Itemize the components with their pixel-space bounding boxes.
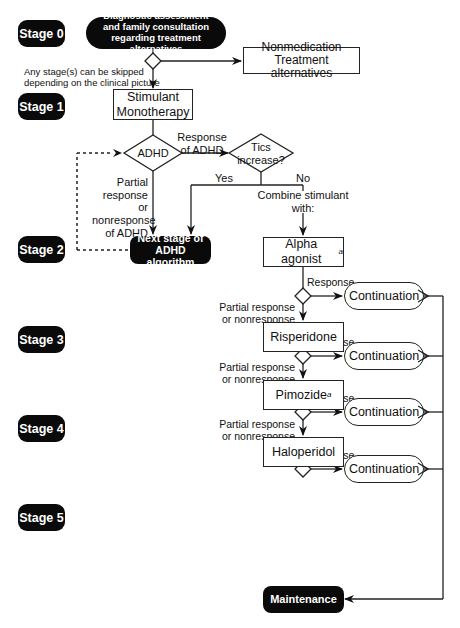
partial-line1: Partial response — [210, 301, 295, 313]
next-stage-line2: ADHD algorithm — [130, 244, 211, 268]
combine-stimulant-label: Combine stimulant with: — [248, 195, 358, 209]
tics-increase-decision-node: Tics increase? — [236, 141, 286, 166]
stimulant-monotherapy-node: Stimulant Monotherapy — [113, 89, 193, 120]
continuation-node-2: Continuation — [344, 342, 424, 370]
nonmedication-line1: Nonmedication — [261, 41, 341, 54]
no-label: No — [293, 172, 313, 184]
diagnostic-assessment-node: Diagnostic assessment and family consult… — [86, 17, 226, 49]
response-of-adhd-line1: Response — [177, 131, 227, 144]
continuation-node-4: Continuation — [344, 455, 424, 483]
partial-response-adhd-label: Partial response or nonresponse of ADHD — [92, 176, 148, 239]
tics-line1: Tics — [251, 141, 271, 154]
pimozide-text: Pimozide — [276, 388, 327, 403]
stage-0-badge: Stage 0 — [18, 20, 65, 47]
tics-line2: increase? — [237, 154, 285, 167]
stage-3-badge: Stage 3 — [18, 326, 65, 353]
adhd-decision-node: ADHD — [133, 146, 173, 160]
risperidone-node: Risperidone — [263, 322, 344, 352]
stage-4-badge: Stage 4 — [18, 415, 65, 442]
alpha-agonist-footnote: a — [339, 247, 343, 257]
nonmedication-node: Nonmedication Treatment alternatives — [243, 47, 360, 74]
stage-5-badge: Stage 5 — [18, 504, 65, 531]
partial-adhd-line2: response or — [92, 189, 148, 214]
partial-adhd-line1: Partial — [92, 176, 148, 189]
yes-label: Yes — [210, 172, 238, 184]
stimulant-line2: Monotherapy — [117, 105, 190, 119]
partial-adhd-line3: nonresponse — [92, 214, 148, 227]
maintenance-node: Maintenance — [263, 586, 344, 613]
stage-1-badge: Stage 1 — [18, 93, 65, 120]
continuation-node-1: Continuation — [344, 282, 424, 310]
skip-note: Any stage(s) can be skipped depending on… — [24, 67, 160, 89]
haloperidol-node: Haloperidol — [263, 437, 344, 467]
continuation-node-3: Continuation — [344, 398, 424, 426]
pimozide-node: Pimozidea — [263, 380, 344, 410]
response-of-adhd-line2: of ADHD — [181, 144, 224, 157]
next-stage-adhd-algorithm-node: Next stage of ADHD algorithm — [130, 236, 211, 264]
skip-note-line2: depending on the clinical picture — [24, 78, 160, 89]
nonmedication-line2: Treatment alternatives — [244, 54, 359, 80]
pimozide-footnote: a — [327, 390, 331, 400]
stage-2-badge: Stage 2 — [18, 236, 65, 263]
alpha-agonist-text: Alpha agonist — [264, 237, 339, 267]
partial-line1: Partial response — [210, 361, 295, 373]
alpha-agonist-node: Alpha agonista — [263, 237, 344, 267]
stimulant-line1: Stimulant — [127, 90, 179, 104]
next-stage-line1: Next stage of — [138, 232, 204, 244]
response-of-adhd-label: Response of ADHD — [176, 131, 228, 156]
partial-line1: Partial response — [210, 418, 295, 430]
